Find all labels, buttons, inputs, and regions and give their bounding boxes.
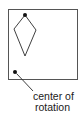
- kite-shape: [14, 15, 36, 56]
- leader-line: [17, 74, 34, 92]
- annotation-line2: rotation: [35, 101, 70, 113]
- center-of-rotation-dot: [13, 70, 17, 74]
- kite-vertex-dot: [23, 13, 27, 17]
- frame-box: [9, 10, 78, 80]
- rotation-diagram: center of rotation: [0, 0, 81, 113]
